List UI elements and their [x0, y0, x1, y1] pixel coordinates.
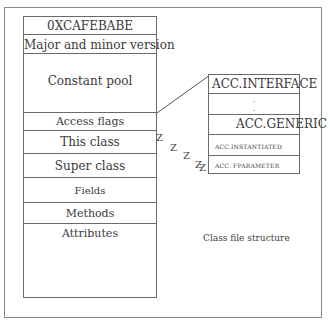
cell-fields: Fields	[24, 178, 156, 203]
diagram-caption: Class file structure	[203, 233, 290, 243]
flag-fparameter: ACC. FPARAMETER	[209, 156, 299, 174]
cell-access-flags: Access flags	[24, 113, 156, 131]
flag-interface: ACC.INTERFACE	[209, 75, 299, 94]
flag-instantiated: ACC.INSTANTIATED	[209, 135, 299, 156]
cell-this-class: This class	[24, 131, 156, 154]
cell-version: Major and minor version	[24, 35, 156, 54]
flag-generic: ACC.GENERIC	[209, 115, 299, 135]
cell-magic: 0XCAFEBABE	[24, 17, 156, 35]
flag-ellipsis: . .	[209, 94, 299, 115]
class-file-stack: 0XCAFEBABE Major and minor version Const…	[23, 16, 157, 298]
cell-super-class: Super class	[24, 154, 156, 178]
cell-methods: Methods	[24, 203, 156, 224]
access-flags-box: ACC.INTERFACE . . ACC.GENERIC ACC.INSTAN…	[208, 74, 300, 174]
cell-constant-pool: Constant pool	[24, 54, 156, 113]
cell-attributes: Attributes	[24, 224, 156, 297]
